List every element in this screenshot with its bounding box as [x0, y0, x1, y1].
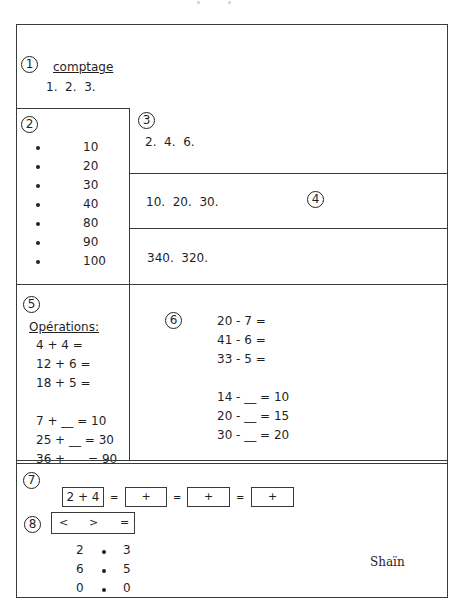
list-item: 90 — [83, 235, 98, 249]
equation: 33 - 5 = — [217, 352, 266, 366]
equation: 18 + 5 = — [36, 376, 90, 390]
equation: 7 + __ = 10 — [36, 414, 106, 428]
equals-sign: = — [236, 491, 244, 505]
expression-box: 2 + 4 — [62, 487, 104, 507]
section-4-sequence-b: 340. 320. — [147, 251, 208, 265]
answer-box[interactable]: + — [251, 487, 294, 507]
section-7-number: 7 — [23, 472, 40, 489]
scan-mark — [228, 1, 231, 4]
section-8-number: 8 — [24, 516, 41, 533]
section-1-number: 1 — [21, 56, 38, 73]
answer-box[interactable]: + — [125, 487, 167, 507]
comparison-right: 5 — [123, 562, 131, 576]
comparison-right: 0 — [123, 581, 131, 595]
comparison-slot[interactable] — [102, 588, 106, 592]
list-item: 80 — [83, 216, 98, 230]
less-than-symbol: < — [59, 516, 68, 530]
bullet-icon — [36, 241, 40, 245]
list-item: 10 — [83, 140, 98, 154]
equation: 20 - 7 = — [217, 314, 266, 328]
section-5-title: Opérations: — [29, 320, 99, 334]
divider — [16, 108, 130, 109]
section-5-number: 5 — [23, 296, 40, 313]
equation: 25 + __ = 30 — [36, 433, 114, 447]
equation: 12 + 6 = — [36, 357, 90, 371]
divider — [16, 460, 448, 461]
signature: Shaïn — [370, 555, 405, 569]
section-3-number: 3 — [138, 112, 155, 129]
divider — [16, 284, 448, 285]
list-item: 20 — [83, 159, 98, 173]
divider — [16, 463, 448, 464]
comparison-slot[interactable] — [102, 569, 106, 573]
list-item: 100 — [83, 254, 106, 268]
comparison-slot[interactable] — [102, 550, 106, 554]
comparison-left: 0 — [76, 581, 84, 595]
section-2-number: 2 — [21, 116, 38, 133]
section-3-sequence: 2. 4. 6. — [145, 135, 195, 149]
equals-sign: = — [173, 491, 181, 505]
answer-box[interactable]: + — [187, 487, 230, 507]
bullet-icon — [36, 146, 40, 150]
equal-symbol: = — [120, 516, 129, 530]
list-item: 40 — [83, 197, 98, 211]
bullet-icon — [36, 222, 40, 226]
comparison-left: 2 — [76, 543, 84, 557]
comparison-right: 3 — [123, 543, 131, 557]
bullet-icon — [36, 184, 40, 188]
divider — [130, 228, 448, 229]
equation: 30 - __ = 20 — [217, 428, 289, 442]
section-1-sequence: 1. 2. 3. — [46, 80, 96, 94]
scan-mark — [197, 1, 200, 4]
equation: 41 - 6 = — [217, 333, 266, 347]
greater-than-symbol: > — [89, 516, 98, 530]
section-4-sequence-a: 10. 20. 30. — [146, 195, 219, 209]
section-4-number: 4 — [307, 191, 324, 208]
divider — [130, 173, 448, 174]
equation: 4 + 4 = — [36, 338, 83, 352]
section-1-title: comptage — [53, 60, 113, 74]
equation: 14 - __ = 10 — [217, 390, 289, 404]
bullet-icon — [36, 203, 40, 207]
section-6-number: 6 — [165, 312, 182, 329]
equation: 20 - __ = 15 — [217, 409, 289, 423]
bullet-icon — [36, 165, 40, 169]
bullet-icon — [36, 260, 40, 264]
comparison-left: 6 — [76, 562, 84, 576]
list-item: 30 — [83, 178, 98, 192]
equals-sign: = — [110, 491, 118, 505]
